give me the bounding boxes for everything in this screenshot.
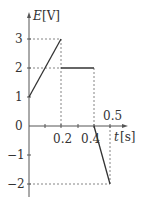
y-label-0: 0	[15, 119, 23, 133]
x-axis-unit: [s]	[120, 130, 136, 144]
y-axis-unit: [V]	[42, 9, 60, 23]
y-axis-label: E	[32, 9, 42, 23]
guide-lines	[29, 39, 110, 184]
x-label-0.4: 0.4	[81, 132, 100, 146]
y-label-1: 1	[15, 90, 23, 104]
data-series	[29, 39, 110, 184]
y-label-2: 2	[15, 61, 23, 75]
x-axis-label: t	[114, 130, 119, 144]
x-axis-arrow-icon	[122, 124, 128, 128]
y-label-3: 3	[15, 32, 23, 46]
emf-time-graph: E [V] 3 2 1 0 −1 −2 0.2 0.4 0.5 t [s]	[0, 0, 151, 207]
y-label-neg2: −2	[7, 177, 25, 191]
y-label-neg1: −1	[7, 148, 25, 162]
x-label-0.2: 0.2	[53, 132, 72, 146]
x-label-0.5: 0.5	[103, 109, 122, 123]
y-axis-arrow-icon	[27, 12, 31, 18]
